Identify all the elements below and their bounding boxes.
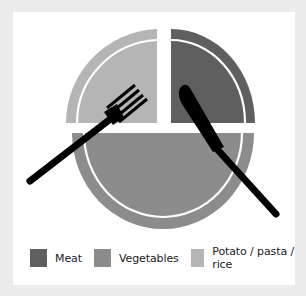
legend-item-vegetables: Vegetables <box>94 249 179 267</box>
section-meat <box>171 29 255 123</box>
section-vegetables <box>72 133 254 229</box>
legend-item-meat: Meat <box>30 249 82 267</box>
legend: Meat Vegetables Potato / pasta / rice <box>30 249 306 267</box>
legend-label-vegetables: Vegetables <box>119 252 179 265</box>
legend-label-meat: Meat <box>55 252 82 265</box>
legend-swatch-meat <box>30 249 47 267</box>
legend-swatch-vegetables <box>94 249 111 267</box>
legend-label-potato-pasta-rice: Potato / pasta / rice <box>212 245 296 271</box>
legend-swatch-potato-pasta-rice <box>191 249 205 267</box>
legend-item-potato-pasta-rice: Potato / pasta / rice <box>191 245 296 271</box>
